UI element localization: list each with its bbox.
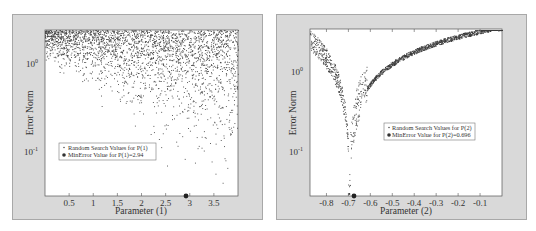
- right-x-axis-label: Parameter (2): [380, 206, 432, 217]
- right-chart: -0.8-0.7-0.6-0.5-0.4-0.3-0.2-0.1 100 10-…: [288, 29, 503, 217]
- x-tick-label: -0.1: [473, 198, 487, 208]
- right-legend-item-2: MinError Value for P(2)=0.696: [392, 131, 471, 139]
- left-ytick-1e-1: 10-1: [24, 146, 38, 157]
- x-tick-label: 3.5: [208, 198, 220, 208]
- right-plot-area: [310, 29, 502, 196]
- left-min-error-marker: [184, 194, 189, 199]
- left-legend: Random Search Values for P(1) MinError V…: [59, 143, 156, 160]
- x-tick-label: -0.2: [451, 198, 465, 208]
- left-ytick-1e0: 100: [26, 58, 38, 69]
- legend-dot-icon: [388, 127, 389, 128]
- legend-filled-circle-icon: [62, 153, 66, 157]
- x-tick-label: -0.7: [341, 198, 356, 208]
- x-tick-label: 3: [188, 198, 193, 208]
- right-ytick-1e-1: 10-1: [289, 146, 303, 157]
- right-min-error-marker: [352, 194, 357, 199]
- left-chart: 0.511.522.533.5 100 10-1 Error Norm Para…: [24, 30, 239, 217]
- left-y-axis-label: Error Norm: [25, 90, 35, 135]
- x-tick-label: -0.6: [363, 198, 378, 208]
- legend-dot-icon: [63, 147, 64, 148]
- charts-canvas: 0.511.522.533.5 100 10-1 Error Norm Para…: [0, 0, 536, 231]
- right-legend: Random Search Values for P(2) MinError V…: [384, 123, 475, 140]
- legend-filled-circle-icon: [387, 133, 391, 137]
- left-x-axis-label: Parameter (1): [115, 206, 167, 217]
- x-tick-label: -0.8: [319, 198, 334, 208]
- x-tick-label: 1: [91, 198, 96, 208]
- x-tick-label: 0.5: [64, 198, 76, 208]
- right-y-axis-label: Error Norm: [288, 90, 298, 135]
- right-ytick-1e0: 100: [291, 66, 303, 77]
- left-legend-item-2: MinError Value for P(1)=2.94: [68, 151, 144, 159]
